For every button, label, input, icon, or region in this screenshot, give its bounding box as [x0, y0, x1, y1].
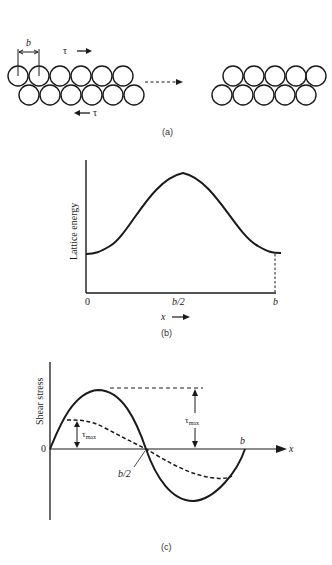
- panel-c: [50, 362, 287, 520]
- tick-b-b: b: [273, 296, 278, 307]
- tick-half-b: b/2: [172, 296, 185, 307]
- left-block-bottom-row: [19, 85, 144, 105]
- right-block-bottom-row: [212, 85, 316, 105]
- caption-b: (b): [161, 328, 172, 338]
- tau-max-large-label: τmax: [185, 415, 199, 426]
- x-axis-arrow: [276, 445, 287, 453]
- mid-label-c: b/2: [118, 468, 131, 479]
- sinusoidal-stress-curve: [50, 390, 245, 501]
- tau-max-small-label: τmax: [82, 429, 96, 440]
- right-block-top-row: [223, 66, 326, 86]
- y-axis-label-b: Lattice energy: [68, 203, 79, 260]
- end-label-c: b: [240, 435, 245, 446]
- bottom-shear-arrow: [74, 110, 90, 116]
- tick-0-b: 0: [85, 296, 90, 307]
- panel-a: [8, 48, 326, 116]
- caption-c: (c): [161, 542, 172, 552]
- x-axis-label-b: x: [160, 311, 166, 322]
- top-tau-label: τ: [63, 45, 67, 56]
- lattice-energy-curve: [86, 173, 281, 254]
- spacing-label: b: [26, 37, 31, 48]
- x-direction-arrow: [183, 314, 190, 320]
- b-spacing-arrows: [19, 50, 38, 54]
- left-block-top-row: [8, 66, 133, 86]
- y-axis-label-c: Shear stress: [34, 377, 45, 425]
- figure-canvas: b τ τ (a) Lattice energy 0 b/2 b x (b): [0, 0, 332, 565]
- b-half-leader: [134, 451, 145, 467]
- top-shear-arrow: [77, 48, 92, 54]
- caption-a: (a): [162, 127, 173, 137]
- bottom-tau-label: τ: [93, 107, 97, 118]
- origin-label-c: 0: [41, 443, 46, 454]
- x-axis-label-c: x: [288, 443, 294, 454]
